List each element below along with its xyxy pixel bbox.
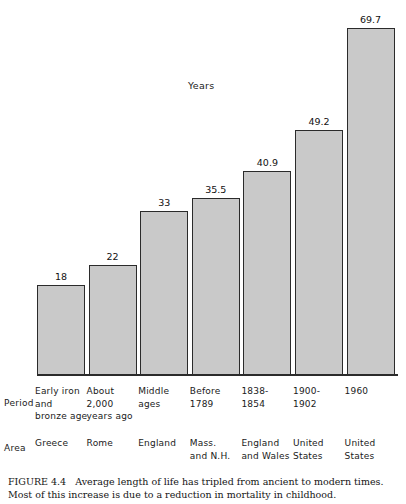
period-cell: 1838-1854 xyxy=(241,385,268,410)
period-cell-line: About xyxy=(87,385,133,398)
bar-value-label: 40.9 xyxy=(243,157,291,168)
period-cell-line: 2,000 xyxy=(87,398,133,411)
period-cell: Before1789 xyxy=(190,385,221,410)
figure-caption: FIGURE 4.4 Average length of life has tr… xyxy=(8,476,400,501)
period-row-label: Period xyxy=(4,398,34,408)
area-cell: UnitedStates xyxy=(345,437,376,462)
bar xyxy=(89,265,137,375)
bar xyxy=(243,171,291,375)
period-cell-line: 1854 xyxy=(241,398,268,411)
period-cell-line: and xyxy=(35,398,87,411)
period-cell-line: ages xyxy=(138,398,169,411)
period-cell-line: bronze age xyxy=(35,410,87,423)
bar xyxy=(295,130,343,375)
bar-value-label: 33 xyxy=(140,197,188,208)
period-cell-line: Middle xyxy=(138,385,169,398)
period-cell: 1960 xyxy=(345,385,369,398)
bar xyxy=(347,28,395,375)
period-cell: 1900-1902 xyxy=(293,385,320,410)
period-cell-line: Early iron xyxy=(35,385,87,398)
bar xyxy=(140,211,188,375)
bar-value-label: 35.5 xyxy=(192,184,240,195)
period-cell-line: years ago xyxy=(87,410,133,423)
bar xyxy=(192,198,240,375)
period-cell-line: 1838- xyxy=(241,385,268,398)
area-cell-line: Greece xyxy=(35,437,68,450)
area-cell-line: United xyxy=(345,437,376,450)
area-cell: UnitedStates xyxy=(293,437,324,462)
bar-chart: Years 18223335.540.949.269.7 xyxy=(0,0,406,380)
area-cell-line: England xyxy=(138,437,176,450)
area-cell-line: United xyxy=(293,437,324,450)
area-cell: Mass.and N.H. xyxy=(190,437,230,462)
period-cell-line: 1900- xyxy=(293,385,320,398)
bar-value-label: 22 xyxy=(89,251,137,262)
area-cell-line: States xyxy=(345,450,376,463)
area-cell-line: States xyxy=(293,450,324,463)
bar-value-label: 18 xyxy=(37,271,85,282)
bar xyxy=(37,285,85,375)
period-cell: Early ironandbronze age xyxy=(35,385,87,423)
period-cell: About2,000years ago xyxy=(87,385,133,423)
period-cell-line: 1902 xyxy=(293,398,320,411)
area-cell: Greece xyxy=(35,437,68,450)
period-cell-line: 1960 xyxy=(345,385,369,398)
bar-value-label: 69.7 xyxy=(347,14,395,25)
area-cell-line: and Wales xyxy=(241,450,289,463)
area-cell-line: Rome xyxy=(87,437,113,450)
period-cell-line: 1789 xyxy=(190,398,221,411)
area-cell: Rome xyxy=(87,437,113,450)
period-cell-line: Before xyxy=(190,385,221,398)
area-cell-line: and N.H. xyxy=(190,450,230,463)
area-cell-line: Mass. xyxy=(190,437,230,450)
chart-axis-title-years: Years xyxy=(188,80,215,91)
area-row-label: Area xyxy=(4,443,26,453)
chart-baseline xyxy=(37,374,398,376)
area-cell-line: England xyxy=(241,437,289,450)
figure-page: Years 18223335.540.949.269.7 Period Earl… xyxy=(0,0,406,504)
bar-value-label: 49.2 xyxy=(295,116,343,127)
area-cell: Englandand Wales xyxy=(241,437,289,462)
area-cell: England xyxy=(138,437,176,450)
figure-number: FIGURE 4.4 xyxy=(8,476,66,487)
period-cell: Middleages xyxy=(138,385,169,410)
